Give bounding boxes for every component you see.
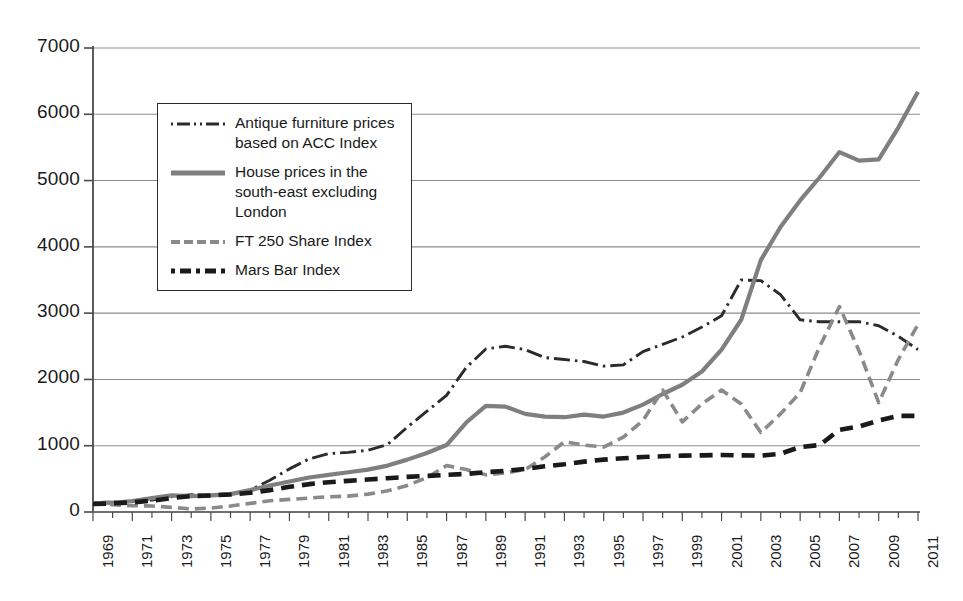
x-tick-label: 2011 (924, 536, 941, 568)
legend-item-ft250: FT 250 Share Index (170, 231, 401, 251)
legend-label-house: House prices in the south-east excluding… (235, 162, 401, 222)
x-tick-label: 1991 (531, 535, 548, 568)
x-tick-label: 1969 (99, 535, 116, 568)
x-tick-label: 1995 (610, 535, 627, 568)
x-tick-label: 2009 (885, 535, 902, 568)
y-tick-label: 3000 (0, 300, 80, 322)
legend-label-ft250: FT 250 Share Index (235, 231, 372, 251)
legend-label-mars: Mars Bar Index (235, 260, 340, 280)
x-tick-label: 2007 (845, 535, 862, 568)
y-tick-label: 7000 (0, 35, 80, 57)
legend-item-antique: Antique furniture prices based on ACC In… (170, 113, 401, 153)
y-axis-tick-marks (84, 48, 93, 512)
y-tick-label: 5000 (0, 168, 80, 190)
x-tick-label: 1993 (570, 535, 587, 568)
x-tick-label: 1983 (374, 535, 391, 568)
x-tick-label: 1979 (295, 535, 312, 568)
x-tick-label: 1981 (335, 535, 352, 568)
chart-plot-area (0, 0, 963, 601)
chart-legend: Antique furniture prices based on ACC In… (157, 103, 412, 291)
x-tick-label: 1975 (217, 535, 234, 568)
x-tick-label: 1985 (413, 535, 430, 568)
y-tick-label: 2000 (0, 366, 80, 388)
x-tick-label: 1989 (492, 535, 509, 568)
y-tick-label: 4000 (0, 234, 80, 256)
y-tick-label: 6000 (0, 101, 80, 123)
x-axis-tick-marks (93, 512, 918, 521)
y-tick-label: 1000 (0, 433, 80, 455)
x-tick-label: 1987 (453, 535, 470, 568)
legend-item-mars: Mars Bar Index (170, 260, 401, 280)
x-tick-label: 1973 (178, 535, 195, 568)
legend-swatch-ft250 (170, 232, 226, 252)
series-line-3 (93, 416, 918, 504)
legend-swatch-house (170, 163, 226, 183)
x-tick-label: 1999 (688, 535, 705, 568)
y-tick-label: 0 (0, 499, 80, 521)
legend-swatch-mars (170, 261, 226, 281)
x-tick-label: 2001 (728, 535, 745, 568)
x-tick-label: 1997 (649, 535, 666, 568)
legend-label-antique: Antique furniture prices based on ACC In… (235, 113, 401, 153)
legend-item-house: House prices in the south-east excluding… (170, 162, 401, 222)
x-tick-label: 1977 (256, 535, 273, 568)
legend-swatch-antique (170, 114, 226, 134)
chart-container: 70006000500040003000200010000 1969197119… (0, 0, 963, 601)
x-tick-label: 1971 (138, 535, 155, 568)
x-tick-label: 2003 (767, 535, 784, 568)
x-tick-label: 2005 (806, 535, 823, 568)
